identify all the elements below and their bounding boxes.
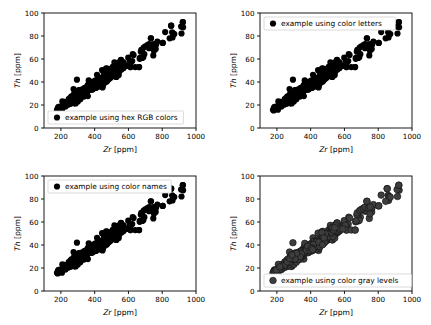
- subplot-bottom-left-plot-ylabel: Th [ppm]: [13, 216, 22, 251]
- svg-text:800: 800: [371, 295, 385, 304]
- svg-text:60: 60: [245, 55, 255, 64]
- subplot-bottom-right-plot-svg: 2004006008001000020406080100Zr [ppm]Th […: [216, 163, 431, 325]
- subplot-bottom-left-plot-svg: 2004006008001000020406080100Zr [ppm]Th […: [0, 163, 215, 325]
- svg-text:60: 60: [245, 218, 255, 227]
- svg-text:400: 400: [304, 132, 318, 141]
- subplot-top-right-plot-svg: 2004006008001000020406080100Zr [ppm]Th […: [216, 0, 431, 162]
- subplot-top-right-plot-ylabel: Th [ppm]: [229, 53, 238, 88]
- svg-text:800: 800: [155, 132, 169, 141]
- svg-text:600: 600: [122, 295, 136, 304]
- svg-text:20: 20: [245, 264, 255, 273]
- svg-text:100: 100: [241, 9, 255, 18]
- subplot-bottom-right-plot-legend-label: example using color gray levels: [281, 276, 399, 285]
- svg-text:40: 40: [245, 78, 255, 87]
- subplot-bottom-right-plot-legend: example using color gray levels: [264, 274, 412, 287]
- svg-text:20: 20: [29, 264, 39, 273]
- subplot-top-right-plot-legend: example using color letters: [264, 17, 395, 30]
- subplot-bottom-right-plot-xlabel: Zr [ppm]: [318, 308, 353, 317]
- subplot-top-right-plot-xlabel: Zr [ppm]: [318, 145, 353, 154]
- subplot-top-left-plot-svg: 2004006008001000020406080100Zr [ppm]Th […: [0, 0, 215, 162]
- svg-text:60: 60: [29, 55, 39, 64]
- subplot-bottom-right-plot-legend-marker: [270, 277, 277, 284]
- subplot-top-right-plot: 2004006008001000020406080100Zr [ppm]Th […: [216, 0, 431, 166]
- svg-text:80: 80: [245, 32, 255, 41]
- svg-text:800: 800: [155, 295, 169, 304]
- svg-text:400: 400: [88, 295, 102, 304]
- svg-text:0: 0: [34, 124, 39, 133]
- figure-canvas: 2004006008001000020406080100Zr [ppm]Th […: [0, 0, 431, 325]
- svg-text:400: 400: [88, 132, 102, 141]
- subplot-bottom-left-plot-xlabel: Zr [ppm]: [102, 308, 137, 317]
- svg-text:200: 200: [270, 295, 284, 304]
- svg-text:200: 200: [270, 132, 284, 141]
- svg-text:200: 200: [54, 132, 68, 141]
- subplot-top-right: 2004006008001000020406080100Zr [ppm]Th […: [216, 0, 431, 162]
- subplot-bottom-left-plot: 2004006008001000020406080100Zr [ppm]Th […: [0, 163, 215, 325]
- svg-text:0: 0: [34, 287, 39, 296]
- subplot-top-left-plot-xlabel: Zr [ppm]: [102, 145, 137, 154]
- svg-text:80: 80: [29, 195, 39, 204]
- svg-text:100: 100: [25, 9, 39, 18]
- subplot-top-right-plot-legend-label: example using color letters: [281, 19, 382, 28]
- svg-text:600: 600: [122, 132, 136, 141]
- svg-text:600: 600: [338, 132, 352, 141]
- svg-text:1000: 1000: [187, 295, 206, 304]
- svg-text:0: 0: [250, 124, 255, 133]
- svg-text:20: 20: [245, 101, 255, 110]
- subplot-top-left-plot-ylabel: Th [ppm]: [13, 53, 22, 88]
- svg-text:600: 600: [338, 295, 352, 304]
- svg-text:0: 0: [250, 287, 255, 296]
- svg-text:60: 60: [29, 218, 39, 227]
- subplot-top-left-plot-legend-label: example using hex RGB colors: [65, 113, 178, 122]
- svg-text:40: 40: [245, 241, 255, 250]
- svg-text:20: 20: [29, 101, 39, 110]
- subplot-bottom-left-plot-legend-marker: [54, 183, 60, 189]
- subplot-bottom-right-plot-ylabel: Th [ppm]: [229, 216, 238, 251]
- subplot-top-left-plot: 2004006008001000020406080100Zr [ppm]Th […: [0, 0, 215, 166]
- subplot-bottom-right-plot: 2004006008001000020406080100Zr [ppm]Th […: [216, 163, 431, 325]
- svg-text:1000: 1000: [187, 132, 206, 141]
- subplot-top-left-plot-legend-marker: [54, 114, 60, 120]
- svg-text:1000: 1000: [403, 132, 422, 141]
- svg-text:80: 80: [29, 32, 39, 41]
- svg-text:40: 40: [29, 78, 39, 87]
- subplot-bottom-left: 2004006008001000020406080100Zr [ppm]Th […: [0, 163, 215, 325]
- subplot-bottom-right: 2004006008001000020406080100Zr [ppm]Th […: [216, 163, 431, 325]
- subplot-bottom-left-plot-legend: example using color names: [48, 180, 171, 193]
- subplot-top-right-plot-legend-marker: [270, 20, 276, 26]
- subplot-top-left-plot-legend: example using hex RGB colors: [48, 111, 183, 124]
- svg-text:1000: 1000: [403, 295, 422, 304]
- svg-text:200: 200: [54, 295, 68, 304]
- subplot-bottom-left-plot-legend-label: example using color names: [65, 182, 167, 191]
- svg-text:100: 100: [241, 172, 255, 181]
- svg-text:100: 100: [25, 172, 39, 181]
- svg-text:80: 80: [245, 195, 255, 204]
- svg-text:800: 800: [371, 132, 385, 141]
- svg-text:40: 40: [29, 241, 39, 250]
- subplot-top-left: 2004006008001000020406080100Zr [ppm]Th […: [0, 0, 215, 162]
- svg-text:400: 400: [304, 295, 318, 304]
